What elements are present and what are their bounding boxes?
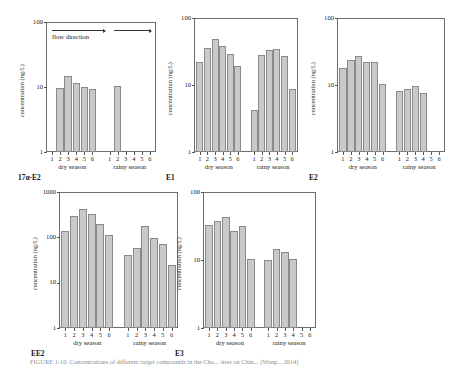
x-tick-mark: [163, 328, 164, 331]
bar: [247, 259, 255, 328]
y-axis-label: concentration (ng/L): [18, 34, 25, 146]
bar: [404, 89, 411, 152]
x-tick-label: 3: [77, 332, 89, 338]
y-tick-mark: [44, 152, 47, 153]
x-tick-mark: [68, 152, 69, 155]
x-tick-label: 5: [425, 156, 437, 162]
season-label-dry: dry season: [329, 164, 397, 171]
bar: [347, 60, 354, 152]
bar: [81, 87, 88, 152]
x-tick-mark: [145, 328, 146, 331]
x-tick-mark: [60, 152, 61, 155]
bar: [150, 238, 158, 328]
y-axis-label: concentration (ng/L): [166, 30, 173, 146]
x-tick-mark: [269, 152, 270, 155]
plot-frame: [337, 18, 445, 152]
chart-panel-E1: concentration (ng/L)110100123456dry seas…: [0, 0, 461, 366]
bar: [196, 62, 203, 152]
bar: [79, 209, 87, 328]
x-tick-mark: [110, 152, 111, 155]
x-tick-mark: [134, 152, 135, 155]
x-tick-mark: [84, 152, 85, 155]
x-tick-mark: [226, 328, 227, 331]
x-tick-mark: [292, 152, 293, 155]
bar: [88, 214, 96, 328]
x-tick-label: 5: [236, 332, 248, 338]
bar: [96, 224, 104, 328]
bar: [251, 110, 258, 152]
season-label-rainy: rainy season: [96, 164, 164, 171]
y-tick-mark: [201, 260, 204, 261]
flow-direction-arrow-head: [103, 29, 106, 33]
x-tick-mark: [100, 328, 101, 331]
y-tick-label: 1: [24, 149, 43, 156]
bar: [363, 62, 370, 152]
bar: [133, 248, 141, 328]
y-tick-label: 1: [37, 325, 56, 332]
x-tick-label: 6: [304, 332, 316, 338]
x-tick-label: 2: [211, 332, 223, 338]
x-tick-mark: [268, 328, 269, 331]
season-label-rainy: rainy season: [240, 164, 306, 171]
y-tick-label: 10: [181, 257, 200, 264]
bar: [371, 62, 378, 152]
x-tick-label: 1: [46, 156, 58, 162]
x-tick-label: 2: [345, 156, 357, 162]
panel-label: E1: [166, 174, 175, 181]
x-tick-label: 2: [271, 332, 283, 338]
x-tick-label: 5: [369, 156, 381, 162]
x-tick-label: 1: [194, 156, 206, 162]
x-tick-label: 2: [54, 156, 66, 162]
y-tick-label: 100: [172, 15, 191, 22]
y-axis-label: concentration (ng/L): [175, 204, 182, 322]
season-label-dry: dry season: [186, 164, 252, 171]
y-tick-label: 100: [24, 19, 43, 26]
x-tick-label: 1: [393, 156, 405, 162]
bar: [273, 49, 280, 152]
bar: [264, 260, 272, 328]
y-tick-mark: [335, 18, 338, 19]
x-tick-label: 3: [62, 156, 74, 162]
y-tick-label: 1: [315, 149, 334, 156]
chart-panel-17E2: concentration (ng/L)110100123456dry seas…: [0, 0, 461, 366]
chart-panel-E3: concentration (ng/L)110100123456dry seas…: [0, 0, 461, 366]
x-tick-label: 5: [78, 156, 90, 162]
x-tick-label: 3: [120, 156, 132, 162]
figure-container: concentration (ng/L)110100123456dry seas…: [0, 0, 461, 366]
x-tick-mark: [128, 328, 129, 331]
x-tick-mark: [209, 328, 210, 331]
y-tick-mark: [201, 328, 204, 329]
bar: [64, 76, 71, 152]
x-tick-mark: [65, 328, 66, 331]
bar: [56, 88, 63, 152]
bar: [339, 68, 346, 152]
bar: [205, 225, 213, 328]
x-tick-label: 1: [262, 332, 274, 338]
x-tick-label: 4: [228, 332, 240, 338]
x-tick-label: 4: [217, 156, 229, 162]
x-tick-label: 1: [203, 332, 215, 338]
season-label-rainy: rainy season: [254, 340, 324, 347]
figure-caption: FIGURE 1-10. Concentrations of different…: [30, 358, 458, 366]
bar: [420, 93, 427, 152]
bar: [289, 89, 296, 152]
x-tick-mark: [254, 152, 255, 155]
chart-panel-EE2: concentration (ng/L)1101001000123456dry …: [0, 0, 461, 366]
x-tick-mark: [150, 152, 151, 155]
x-tick-label: 1: [248, 156, 260, 162]
x-tick-mark: [230, 152, 231, 155]
x-tick-label: 5: [279, 156, 291, 162]
bar: [141, 226, 149, 328]
x-tick-mark: [383, 152, 384, 155]
x-tick-label: 1: [59, 332, 71, 338]
bar: [222, 217, 230, 328]
x-tick-label: 4: [128, 156, 140, 162]
x-tick-mark: [217, 328, 218, 331]
x-tick-mark: [238, 152, 239, 155]
y-tick-label: 10: [37, 279, 56, 286]
y-tick-mark: [201, 192, 204, 193]
x-tick-mark: [367, 152, 368, 155]
season-label-dry: dry season: [51, 340, 124, 347]
y-tick-mark: [57, 237, 60, 238]
x-tick-label: 1: [122, 332, 134, 338]
